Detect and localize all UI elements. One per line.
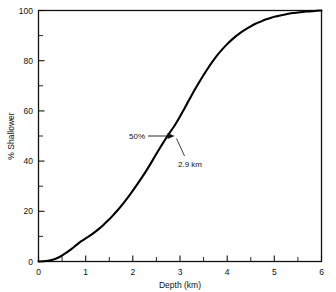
y-tick-label: 40 <box>24 156 34 166</box>
x-axis-major-ticks <box>39 256 322 262</box>
x-tick-label: 5 <box>272 267 277 277</box>
y-tick-label: 20 <box>24 206 34 216</box>
annotation-median-percent: 50% <box>129 132 175 141</box>
y-axis-minor-ticks <box>39 36 44 237</box>
x-tick-label: 2 <box>130 267 135 277</box>
y-tick-label: 100 <box>19 6 33 16</box>
chart-figure: 0 20 40 60 80 100 0 1 2 3 4 5 6 Depth (k… <box>0 0 336 292</box>
x-tick-label: 6 <box>319 267 324 277</box>
plot-frame <box>39 11 322 262</box>
x-tick-label: 1 <box>83 267 88 277</box>
x-tick-label: 3 <box>178 267 183 277</box>
data-curve <box>39 11 322 262</box>
x-axis-tick-labels: 0 1 2 3 4 5 6 <box>36 267 324 277</box>
y-tick-label: 60 <box>24 106 34 116</box>
y-tick-label: 0 <box>28 257 33 267</box>
y-tick-label: 80 <box>24 56 34 66</box>
chart-canvas: 0 20 40 60 80 100 0 1 2 3 4 5 6 Depth (k… <box>0 0 336 292</box>
x-tick-label: 0 <box>36 267 41 277</box>
arrow-head-icon <box>168 133 175 139</box>
x-axis-title: Depth (km) <box>159 280 201 290</box>
y-axis-title: % Shallower <box>6 112 16 159</box>
annotation-label-2-9-km: 2.9 km <box>178 160 202 169</box>
x-tick-label: 4 <box>225 267 230 277</box>
annotation-label-50-percent: 50% <box>129 132 145 141</box>
y-axis-tick-labels: 0 20 40 60 80 100 <box>19 6 33 267</box>
annotation-median-depth: 2.9 km <box>177 139 203 169</box>
